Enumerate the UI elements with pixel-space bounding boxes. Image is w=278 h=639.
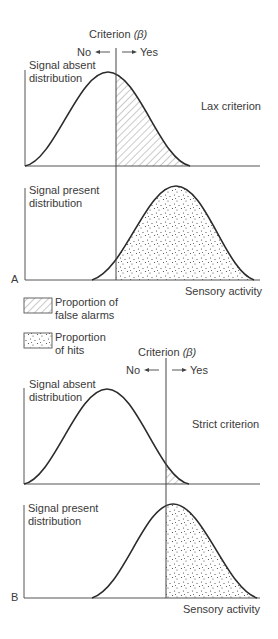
- panel-a-no-label: No: [77, 46, 91, 59]
- signal-detection-diagram: [0, 0, 278, 639]
- panel-b-absent-label-1: Signal absent: [29, 378, 96, 391]
- legend-false-alarms-label-1: Proportion of: [55, 296, 118, 309]
- panel-b-yes-label: Yes: [190, 364, 208, 377]
- legend-dots-swatch: [24, 333, 52, 348]
- panel-a-present-label-1: Signal present: [29, 184, 99, 197]
- hits-area: [92, 504, 257, 598]
- legend-hits-label-2: of hits: [55, 344, 84, 357]
- panel-b-no-label: No: [126, 364, 140, 377]
- yes-arrow: [122, 50, 137, 54]
- panel-b-absent-label-2: distribution: [29, 391, 82, 404]
- panel-a-yes-label: Yes: [140, 46, 158, 59]
- no-arrow: [144, 368, 159, 372]
- legend-hatch-swatch: [24, 298, 52, 313]
- panel-b-present-label-2: distribution: [28, 515, 81, 528]
- legend-hits-label-1: Proportion: [55, 331, 106, 344]
- panel-a-condition-label: Lax criterion: [201, 100, 261, 113]
- panel-a-x-axis-label: Sensory activity: [185, 285, 262, 298]
- panel-a-absent-label-2: distribution: [29, 72, 82, 85]
- no-arrow: [95, 50, 110, 54]
- beta-symbol: (β): [183, 346, 197, 358]
- panel-a-absent-label-1: Signal absent: [29, 59, 96, 72]
- panel-b-present-label-1: Signal present: [28, 502, 98, 515]
- panel-a-criterion-label: Criterion (β): [89, 28, 147, 41]
- panel-b-letter: B: [11, 591, 18, 604]
- false-alarm-area: [25, 72, 190, 166]
- panel-b-criterion-label: Criterion (β): [138, 346, 196, 359]
- legend: [24, 298, 52, 348]
- yes-arrow: [172, 368, 187, 372]
- panel-a-present-label-2: distribution: [29, 197, 82, 210]
- panel-a-letter: A: [11, 273, 18, 286]
- criterion-text: Criterion: [138, 346, 180, 358]
- criterion-text: Criterion: [89, 28, 131, 40]
- beta-symbol: (β): [134, 28, 148, 40]
- panel-b-x-axis-label: Sensory activity: [183, 603, 260, 616]
- panel-b-condition-label: Strict criterion: [192, 418, 259, 431]
- legend-false-alarms-label-2: false alarms: [55, 309, 114, 322]
